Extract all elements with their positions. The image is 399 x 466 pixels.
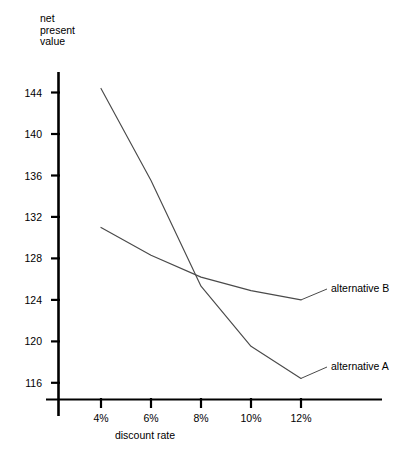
x-tick-label-12pct: 12% [281,412,321,424]
x-axis-title: discount rate [0,430,290,442]
x-tick-label-4pct: 4% [81,412,121,424]
y-tick-label-140: 140 [8,128,42,140]
x-tick-label-10pct: 10% [231,412,271,424]
y-tick-label-132: 132 [8,211,42,223]
x-tick-label-8pct: 8% [181,412,221,424]
series-label-alternative-b: alternative B [331,282,389,294]
y-tick-label-124: 124 [8,294,42,306]
y-axis-title: net present value [40,13,75,48]
figure-caption [2,456,397,466]
series-line-alternative-a [101,88,301,378]
x-tick-label-6pct: 6% [131,412,171,424]
y-tick-label-144: 144 [8,87,42,99]
series-label-alternative-a: alternative A [331,360,389,372]
chart-plot-area [0,0,399,466]
y-tick-label-128: 128 [8,252,42,264]
y-tick-label-120: 120 [8,335,42,347]
series-line-alternative-b [101,227,301,300]
figure-container: net present value 144 140 136 132 128 12… [0,0,399,466]
leader-line-alternative-b [301,289,327,300]
y-tick-label-116: 116 [8,377,42,389]
leader-line-alternative-a [301,367,327,378]
y-tick-label-136: 136 [8,170,42,182]
